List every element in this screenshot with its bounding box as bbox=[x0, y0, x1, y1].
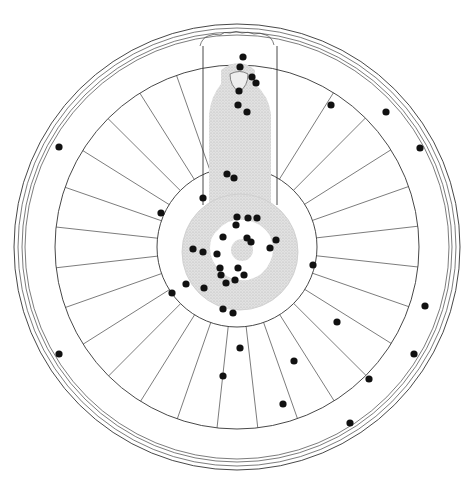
find-spot-dot bbox=[223, 170, 230, 177]
find-spot-dot bbox=[222, 279, 229, 286]
find-spot-dot bbox=[182, 280, 189, 287]
spoke bbox=[177, 323, 210, 419]
spoke bbox=[109, 304, 181, 376]
find-spot-dot bbox=[217, 271, 224, 278]
find-spot-dot bbox=[272, 236, 279, 243]
find-spot-dot bbox=[290, 357, 297, 364]
find-spot-dot bbox=[410, 350, 417, 357]
find-spot-dot bbox=[382, 108, 389, 115]
find-spot-dot bbox=[234, 264, 241, 271]
spoke bbox=[316, 226, 417, 238]
site-plan bbox=[0, 0, 472, 487]
spoke bbox=[317, 256, 418, 267]
find-spot-dot bbox=[157, 209, 164, 216]
find-spot-dot bbox=[189, 245, 196, 252]
find-spot-dot bbox=[333, 318, 340, 325]
spoke bbox=[140, 93, 194, 179]
find-spot-dot bbox=[199, 194, 206, 201]
find-spot-dot bbox=[200, 284, 207, 291]
spoke bbox=[177, 75, 211, 171]
find-spot-dot bbox=[327, 101, 334, 108]
spoke bbox=[312, 187, 408, 221]
find-spot-dot bbox=[236, 344, 243, 351]
entrance-passage bbox=[200, 32, 277, 210]
spoke bbox=[305, 289, 391, 343]
find-spot-dot bbox=[55, 350, 62, 357]
find-spot-dot bbox=[235, 87, 242, 94]
find-spot-dot bbox=[216, 264, 223, 271]
find-spot-dot bbox=[248, 73, 255, 80]
find-spot-dot bbox=[279, 400, 286, 407]
find-spot-dot bbox=[229, 309, 236, 316]
spoke bbox=[56, 227, 157, 238]
spoke bbox=[279, 93, 333, 179]
find-spot-dot bbox=[309, 261, 316, 268]
spoke bbox=[280, 315, 334, 401]
find-spot-dot bbox=[252, 79, 259, 86]
spoke bbox=[83, 151, 169, 205]
spoke bbox=[83, 290, 169, 344]
spoke bbox=[141, 315, 195, 401]
find-spot-dot bbox=[233, 213, 240, 220]
find-spot-dot bbox=[240, 271, 247, 278]
find-spot-dot bbox=[239, 53, 246, 60]
find-spot-dot bbox=[213, 250, 220, 257]
find-spot-dot bbox=[253, 214, 260, 221]
central-hub bbox=[182, 194, 298, 310]
find-spot-dot bbox=[219, 372, 226, 379]
find-spot-dot bbox=[232, 221, 239, 228]
find-spot-dot bbox=[55, 143, 62, 150]
spoke bbox=[56, 256, 157, 268]
find-spot-dot bbox=[168, 289, 175, 296]
find-spot-dot bbox=[219, 233, 226, 240]
spoke bbox=[108, 119, 180, 191]
find-spot-dot bbox=[236, 63, 243, 70]
spoke bbox=[313, 273, 409, 306]
find-spot-dot bbox=[247, 238, 254, 245]
spoke bbox=[305, 150, 391, 204]
find-spot-dot bbox=[199, 248, 206, 255]
find-spot-dot bbox=[244, 214, 251, 221]
find-spot-dot bbox=[243, 108, 250, 115]
find-spot-dot bbox=[231, 276, 238, 283]
find-spot-dot bbox=[346, 419, 353, 426]
find-spot-dot bbox=[219, 305, 226, 312]
find-spot-dot bbox=[234, 101, 241, 108]
spoke bbox=[246, 326, 258, 427]
spoke bbox=[294, 303, 366, 375]
find-spot-dot bbox=[365, 375, 372, 382]
find-spot-dot bbox=[230, 174, 237, 181]
find-spot-dot bbox=[416, 144, 423, 151]
spoke bbox=[65, 274, 161, 308]
find-spot-dot bbox=[421, 302, 428, 309]
spoke bbox=[293, 118, 365, 190]
spoke bbox=[65, 187, 161, 220]
find-spot-dot bbox=[266, 244, 273, 251]
